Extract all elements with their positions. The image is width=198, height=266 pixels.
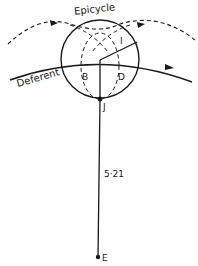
label-i: I: [120, 36, 123, 46]
arrow-deferent-icon: [165, 64, 174, 70]
label-distance: 5·21: [104, 169, 124, 179]
dashed-orbit-path: [8, 20, 195, 44]
label-deferent: Deferent: [15, 66, 60, 89]
arrow-left-dashed-icon: [50, 20, 58, 26]
epicycle-diagram: Epicycle Deferent I B D J 5·21 E: [0, 0, 198, 266]
point-e-dot: [96, 255, 100, 259]
line-j-e: [98, 99, 100, 257]
label-e: E: [102, 253, 108, 263]
arrow-right-dashed-icon: [137, 22, 145, 28]
label-b: B: [82, 72, 88, 82]
label-j: J: [102, 102, 106, 112]
label-epicycle: Epicycle: [73, 1, 115, 16]
point-j-dot: [98, 97, 103, 102]
label-d: D: [118, 72, 125, 82]
